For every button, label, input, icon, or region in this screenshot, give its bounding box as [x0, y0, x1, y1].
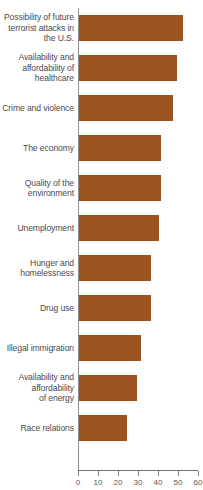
x-axis-tick: [158, 471, 159, 476]
bar-row: Availability andaffordability ofhealthca…: [0, 48, 203, 88]
category-label-line: the U.S.: [2, 33, 74, 43]
bar-row: Quality of theenvironment: [0, 168, 203, 208]
bar: [79, 255, 151, 281]
category-label-line: Availability and: [2, 52, 74, 62]
category-label-line: affordability of: [2, 63, 74, 73]
category-label: Hunger andhomelessness: [2, 258, 74, 279]
x-axis-tick-label: 10: [94, 478, 103, 488]
category-label: Quality of theenvironment: [2, 178, 74, 199]
bar-row: Unemployment: [0, 208, 203, 248]
bar-row: The economy: [0, 128, 203, 168]
category-label-line: Hunger and: [2, 258, 74, 268]
category-label-line: terrorist attacks in: [2, 23, 74, 33]
plot-area: Possibility of futureterrorist attacks i…: [0, 0, 203, 490]
x-axis-tick: [178, 471, 179, 476]
category-label-line: Race relations: [2, 423, 74, 433]
x-axis-tick-label: 30: [134, 478, 143, 488]
bar-row: Availability andaffordabilityof energy: [0, 368, 203, 408]
bar-chart: Possibility of futureterrorist attacks i…: [0, 0, 203, 490]
category-label-line: of energy: [2, 393, 74, 403]
bar: [79, 375, 137, 401]
x-axis-tick: [198, 471, 199, 476]
bar: [79, 175, 161, 201]
x-axis-tick-label: 20: [114, 478, 123, 488]
bar: [79, 135, 161, 161]
x-axis-tick-label: 60: [194, 478, 203, 488]
category-label: Illegal immigration: [2, 343, 74, 353]
category-label-line: Unemployment: [2, 223, 74, 233]
bar: [79, 415, 127, 441]
category-label-line: Crime and violence: [2, 103, 74, 113]
bar: [79, 335, 141, 361]
bar: [79, 215, 159, 241]
bar: [79, 55, 177, 81]
category-label-line: healthcare: [2, 73, 74, 83]
bar: [79, 95, 173, 121]
category-label-line: affordability: [2, 383, 74, 393]
category-label-line: Illegal immigration: [2, 343, 74, 353]
bar-row: Drug use: [0, 288, 203, 328]
bar-row: Race relations: [0, 408, 203, 448]
bar: [79, 15, 183, 41]
x-axis-tick: [78, 471, 79, 476]
category-label-line: Drug use: [2, 303, 74, 313]
x-axis-tick: [98, 471, 99, 476]
bar-row: Possibility of futureterrorist attacks i…: [0, 8, 203, 48]
category-label-line: environment: [2, 188, 74, 198]
bar-row: Hunger andhomelessness: [0, 248, 203, 288]
category-label-line: Quality of the: [2, 178, 74, 188]
x-axis-tick-label: 50: [174, 478, 183, 488]
bar-row: Crime and violence: [0, 88, 203, 128]
bar-row: Illegal immigration: [0, 328, 203, 368]
bar: [79, 295, 151, 321]
category-label-line: homelessness: [2, 268, 74, 278]
category-label-line: Availability and: [2, 372, 74, 382]
category-label: The economy: [2, 143, 74, 153]
category-label: Unemployment: [2, 223, 74, 233]
x-axis-tick-label: 40: [154, 478, 163, 488]
category-label: Crime and violence: [2, 103, 74, 113]
x-axis-tick-label: 0: [76, 478, 80, 488]
x-axis-tick: [118, 471, 119, 476]
category-label: Availability andaffordabilityof energy: [2, 372, 74, 403]
category-label: Availability andaffordability ofhealthca…: [2, 52, 74, 83]
category-label-line: The economy: [2, 143, 74, 153]
category-label: Possibility of futureterrorist attacks i…: [2, 12, 74, 43]
category-label: Race relations: [2, 423, 74, 433]
category-label: Drug use: [2, 303, 74, 313]
x-axis-tick: [138, 471, 139, 476]
category-label-line: Possibility of future: [2, 12, 74, 22]
